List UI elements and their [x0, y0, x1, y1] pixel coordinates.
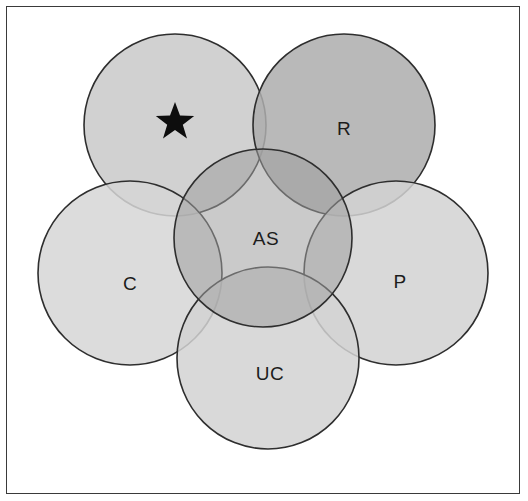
venn-label-uc: UC: [256, 363, 284, 384]
venn-figure: R C P UC AS: [0, 0, 528, 501]
venn-label-r: R: [337, 118, 351, 139]
venn-label-as: AS: [253, 228, 279, 249]
venn-diagram: R C P UC AS: [0, 0, 528, 501]
venn-label-p: P: [393, 271, 406, 292]
venn-label-c: C: [123, 273, 137, 294]
